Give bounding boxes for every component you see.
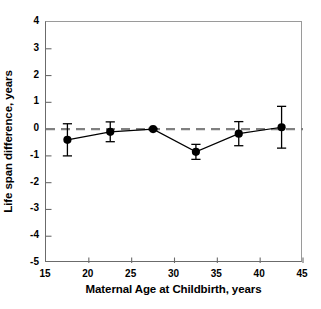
clipped-caption-text: — — — — — [86, 0, 139, 3]
x-tick-label: 40 [246, 269, 272, 279]
data-point-marker[interactable] [63, 136, 71, 144]
x-tick-label: 45 [289, 269, 315, 279]
x-tick-label: 15 [32, 269, 58, 279]
x-tick-label: 20 [75, 269, 101, 279]
y-tick-label: -1 [13, 150, 39, 160]
data-point-marker[interactable] [277, 123, 285, 131]
plot-area [45, 21, 302, 262]
data-point-marker[interactable] [106, 128, 114, 136]
y-tick-label: -3 [13, 203, 39, 213]
y-axis-title: Life span difference, years [2, 21, 18, 262]
data-line [67, 127, 281, 152]
y-tick-label: 3 [13, 43, 39, 53]
data-point-marker[interactable] [235, 130, 243, 138]
data-point-marker[interactable] [149, 125, 157, 133]
y-tick-label: 1 [13, 96, 39, 106]
y-tick-label: -5 [13, 257, 39, 267]
x-tick-label: 25 [118, 269, 144, 279]
data-point-marker[interactable] [192, 148, 200, 156]
y-tick-label: -4 [13, 230, 39, 240]
y-tick-label: 2 [13, 70, 39, 80]
figure-container: — — — — — Life span difference, years Ma… [0, 0, 321, 309]
y-tick-label: 0 [13, 123, 39, 133]
chart-canvas [46, 22, 303, 263]
y-tick-label: 4 [13, 16, 39, 26]
x-tick-label: 35 [203, 269, 229, 279]
x-axis-title: Maternal Age at Childbirth, years [45, 283, 302, 295]
clipped-caption-strip: — — — — — [0, 0, 321, 5]
y-tick-label: -2 [13, 177, 39, 187]
x-tick-label: 30 [161, 269, 187, 279]
